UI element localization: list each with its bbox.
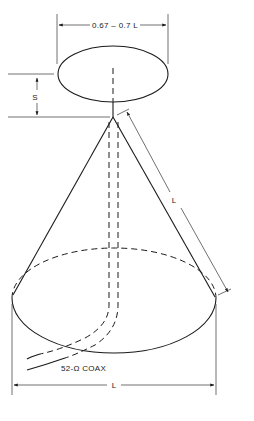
base-diameter-label: L: [112, 381, 117, 390]
base-diameter-dimension: L: [12, 304, 216, 395]
discone-antenna-diagram: 0.67 – 0.7 L S 52-Ω COAX L: [0, 0, 254, 421]
disc-diameter-label: 0.67 – 0.7 L: [92, 21, 138, 30]
slant-length-dimension: L: [117, 109, 231, 295]
slant-length-label: L: [172, 196, 177, 205]
spacing-label: S: [32, 93, 38, 102]
disc-diameter-dimension: 0.67 – 0.7 L: [57, 14, 168, 64]
coax-label: 52-Ω COAX: [61, 364, 107, 373]
cone: [12, 117, 216, 353]
